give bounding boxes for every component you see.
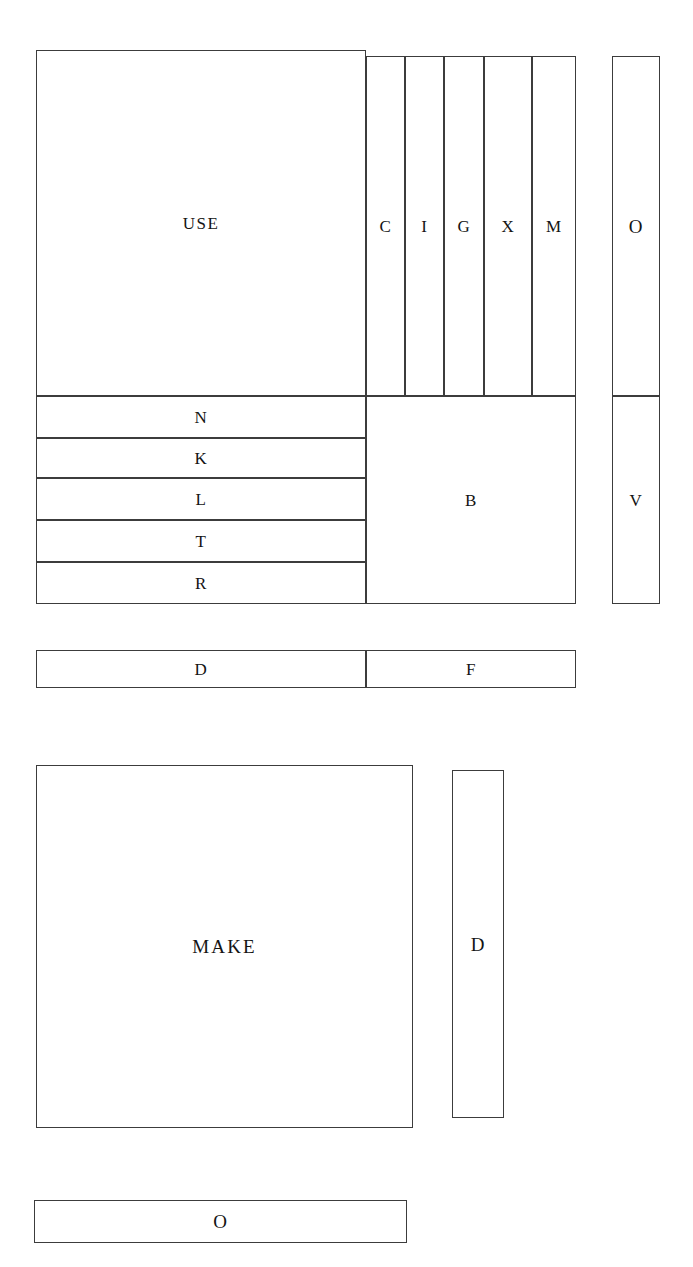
treemap-cell-label: D bbox=[195, 661, 208, 678]
treemap-cell-b-0-11[interactable]: B bbox=[366, 396, 576, 604]
treemap-cell-x-0-4[interactable]: X bbox=[484, 56, 532, 396]
treemap-cell-label: I bbox=[421, 218, 427, 235]
treemap-cell-label: K bbox=[195, 450, 208, 467]
treemap-cell-label: D bbox=[471, 935, 485, 954]
treemap-cell-make-3-0[interactable]: MAKE bbox=[36, 765, 413, 1128]
treemap-cell-label: M bbox=[546, 218, 562, 235]
treemap-cell-k-0-7[interactable]: K bbox=[36, 438, 366, 478]
treemap-cell-o-4-0[interactable]: O bbox=[34, 1200, 407, 1243]
treemap-cell-n-0-6[interactable]: N bbox=[36, 396, 366, 438]
treemap-cell-d-2-0[interactable]: D bbox=[36, 650, 366, 688]
treemap-cell-g-0-3[interactable]: G bbox=[444, 56, 484, 396]
treemap-cell-l-0-8[interactable]: L bbox=[36, 478, 366, 520]
treemap-canvas: USECIGXMNKLTRBOVDFMAKEDO bbox=[0, 0, 693, 1267]
treemap-cell-use-0-0[interactable]: USE bbox=[36, 50, 366, 396]
treemap-cell-label: X bbox=[502, 218, 515, 235]
treemap-cell-f-2-1[interactable]: F bbox=[366, 650, 576, 688]
treemap-cell-label: MAKE bbox=[192, 937, 256, 956]
treemap-cell-label: V bbox=[630, 492, 643, 509]
treemap-cell-label: F bbox=[466, 661, 476, 678]
treemap-cell-label: USE bbox=[183, 215, 220, 232]
treemap-cell-i-0-2[interactable]: I bbox=[405, 56, 444, 396]
treemap-cell-v-1-1[interactable]: V bbox=[612, 396, 660, 604]
treemap-cell-label: G bbox=[458, 218, 471, 235]
treemap-cell-label: B bbox=[465, 492, 477, 509]
treemap-cell-r-0-10[interactable]: R bbox=[36, 562, 366, 604]
treemap-cell-d-3-1[interactable]: D bbox=[452, 770, 504, 1118]
treemap-cell-m-0-5[interactable]: M bbox=[532, 56, 576, 396]
treemap-cell-label: O bbox=[213, 1212, 227, 1231]
treemap-cell-label: O bbox=[629, 217, 643, 236]
treemap-cell-label: R bbox=[195, 575, 207, 592]
treemap-cell-label: N bbox=[195, 409, 208, 426]
treemap-cell-label: C bbox=[379, 218, 391, 235]
treemap-cell-c-0-1[interactable]: C bbox=[366, 56, 405, 396]
treemap-cell-label: T bbox=[195, 533, 206, 550]
treemap-cell-o-1-0[interactable]: O bbox=[612, 56, 660, 396]
treemap-cell-t-0-9[interactable]: T bbox=[36, 520, 366, 562]
treemap-cell-label: L bbox=[195, 491, 206, 508]
